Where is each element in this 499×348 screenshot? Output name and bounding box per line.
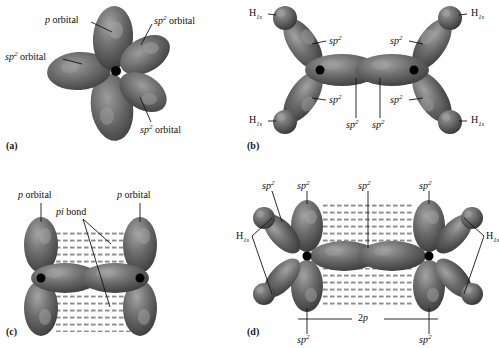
hydrogen-sphere-b-top-right <box>438 6 462 30</box>
panel-letter-b: (b) <box>247 140 259 151</box>
label-sp2-bottom-left: sp2 <box>297 334 309 345</box>
panel-b: H1s H1s H1s H1s sp2 sp2 sp2 sp2 sp2 sp2 … <box>246 0 492 174</box>
panel-c-graphic <box>0 174 246 348</box>
label-h1s-top-right: H1s <box>471 8 484 21</box>
label-pi-bond: pi bond <box>56 207 86 217</box>
hydrogen-sphere-b-bottom-right <box>438 110 462 134</box>
label-sp2-orbital-bottom: sp2 orbital <box>140 124 181 135</box>
label-sp2-top-4: sp2 <box>419 180 431 191</box>
label-sp2-orbital-right: sp2 orbital <box>154 15 195 26</box>
nucleus-dot-left <box>316 66 325 75</box>
panel-c: p orbital p orbital pi bond (c) <box>0 174 246 348</box>
panel-letter-c: (c) <box>6 326 17 337</box>
label-sp2-bottom-right: sp2 <box>419 334 431 345</box>
nucleus-dot-right-d <box>425 252 434 261</box>
label-h1s-left: H1s <box>236 231 249 244</box>
label-sp2-lower-right: sp2 <box>390 94 402 105</box>
label-sp2-sigma-right: sp2 <box>372 119 384 130</box>
nucleus-dot-left-c <box>37 274 46 283</box>
hydrogen-sphere-b-top-left <box>273 6 297 30</box>
panel-d-graphic <box>246 174 492 348</box>
pi-bond-cloud-bottom-d <box>322 268 414 308</box>
panel-d: sp2 sp2 sp2 sp2 sp2 sp2 2p H1s H1s (d) <box>246 174 492 348</box>
label-p-orbital-left: p orbital <box>18 190 52 200</box>
label-sp2-top-3: sp2 <box>358 180 370 191</box>
panel-b-graphic <box>246 0 492 174</box>
label-h1s-bottom-left: H1s <box>249 115 262 128</box>
label-p-orbital-top: p orbital <box>45 15 79 25</box>
label-sp2-top-2: sp2 <box>297 180 309 191</box>
label-sp2-orbital-left: sp2 orbital <box>5 51 46 62</box>
label-sp2-upper-right: sp2 <box>390 35 402 46</box>
label-sp2-upper-left: sp2 <box>329 35 341 46</box>
panel-a: p orbital sp2 orbital sp2 orbital sp2 or… <box>0 0 246 174</box>
label-sp2-sigma-left: sp2 <box>346 119 358 130</box>
nucleus-dot-right <box>410 66 419 75</box>
label-sp2-lower-left: sp2 <box>329 94 341 105</box>
nucleus-dot <box>111 66 121 76</box>
hydrogen-sphere-b-bottom-left <box>273 110 297 134</box>
nucleus-dot-right-c <box>136 274 145 283</box>
panel-letter-d: (d) <box>247 326 259 337</box>
label-h1s-right: H1s <box>486 231 499 244</box>
label-p-orbital-right: p orbital <box>117 190 151 200</box>
label-sp2-top-1: sp2 <box>262 180 274 191</box>
panel-letter-a: (a) <box>6 140 18 151</box>
panel-a-graphic <box>0 0 246 174</box>
nucleus-dot-left-d <box>303 252 312 261</box>
label-h1s-bottom-right: H1s <box>471 115 484 128</box>
label-h1s-top-left: H1s <box>249 8 262 21</box>
label-2p: 2p <box>358 313 368 323</box>
